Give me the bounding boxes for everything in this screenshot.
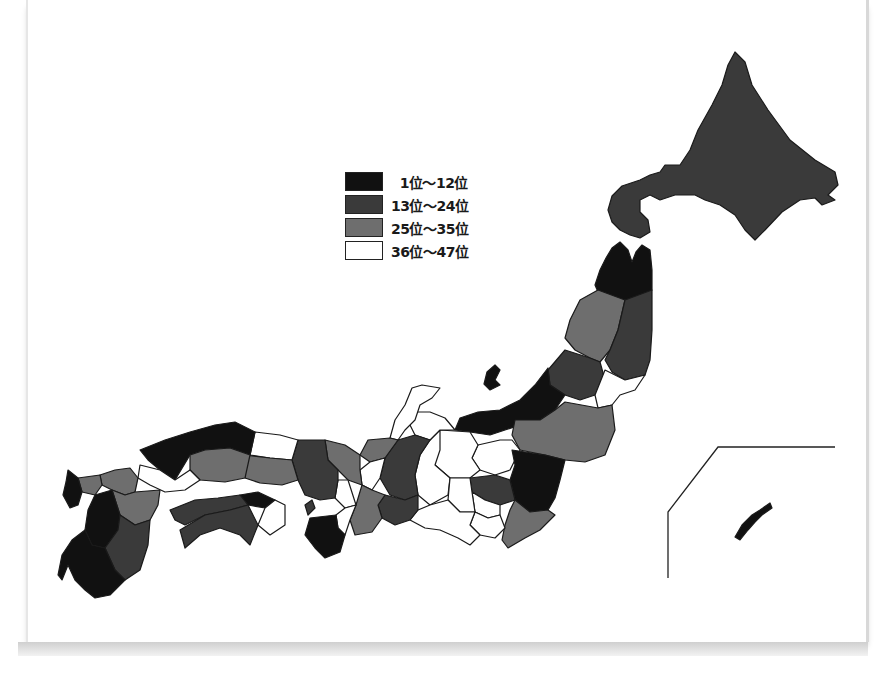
okinawa-inset-border [668,447,835,578]
region-aomori [595,242,652,300]
region-sado [484,365,500,390]
legend-item-rank-13-24: 13位～24位 [345,193,468,216]
legend-swatch-gray [345,218,383,237]
region-hokkaido [608,52,838,240]
region-fukuoka [100,468,138,495]
region-tottori [250,432,298,460]
region-awaji [305,500,315,515]
legend-item-rank-36-47: 36位～47位 [345,239,468,262]
region-okinawa [735,503,772,540]
legend-item-rank-1-12: 1位～12位 [345,170,468,193]
legend-label: 25位～35位 [391,218,468,238]
legend-label: 36位～47位 [391,241,468,261]
legend-label: 1位～12位 [391,172,468,192]
legend-swatch-dark-gray [345,195,383,214]
legend-label: 13位～24位 [391,195,468,215]
region-osaka [335,480,356,508]
region-shiga [360,458,385,490]
legend-item-rank-25-35: 25位～35位 [345,216,468,239]
legend-swatch-black [345,172,383,191]
region-nagasaki [63,470,82,508]
japan-choropleth-map [0,0,894,688]
legend-swatch-white [345,241,383,260]
region-mie [350,485,385,535]
region-okayama [245,455,298,485]
region-hiroshima [190,448,250,482]
map-legend: 1位～12位 13位～24位 25位～35位 36位～47位 [345,170,468,262]
